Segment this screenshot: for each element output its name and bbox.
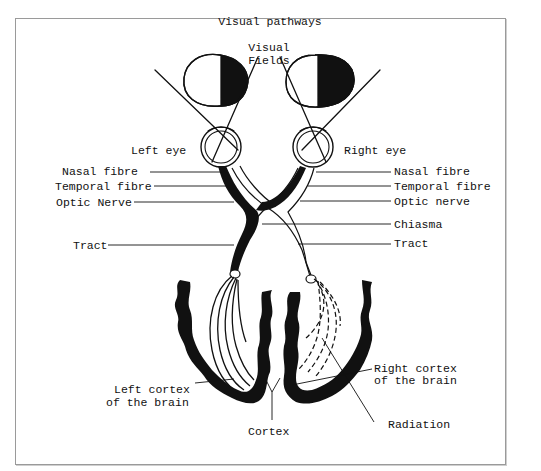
cortex-label: Cortex — [248, 425, 289, 438]
right-optic-nerve-label: Optic nerve — [394, 195, 470, 208]
right-cortex — [283, 279, 372, 404]
left-nasal-fibre-label: Nasal fibre — [62, 165, 138, 178]
left-optic-nerve-label: Optic Nerve — [56, 196, 132, 209]
diagram-title: Visual pathways — [212, 15, 328, 28]
right-tract-label: Tract — [394, 237, 429, 250]
left-visual-field — [184, 54, 248, 106]
right-nasal-fibre-label: Nasal fibre — [394, 165, 470, 178]
visual-pathways-illustration — [0, 0, 541, 471]
radiation-label: Radiation — [388, 418, 450, 431]
left-tract-label: Tract — [73, 239, 108, 252]
right-cortex-label-line2: of the brain — [374, 374, 457, 387]
left-cortex-label-line2: of the brain — [106, 396, 189, 409]
optic-chiasma-pathways — [218, 166, 316, 283]
chiasma-label: Chiasma — [394, 218, 442, 231]
right-eye-label: Right eye — [344, 144, 406, 157]
left-eye-label: Left eye — [131, 144, 186, 157]
right-temporal-fibre-label: Temporal fibre — [394, 180, 491, 193]
left-cortex-label-line1: Left cortex — [114, 383, 190, 396]
visual-fields-label-line2: Fields — [244, 54, 294, 67]
right-visual-field — [286, 55, 354, 107]
visual-fields-label-line1: Visual — [244, 41, 294, 54]
left-temporal-fibre-label: Temporal fibre — [55, 180, 152, 193]
